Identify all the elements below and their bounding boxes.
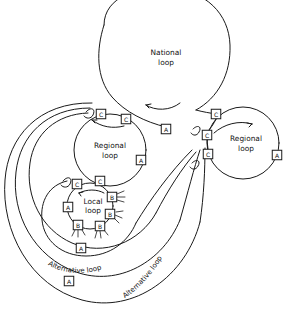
node-label: C — [98, 178, 102, 185]
hook-right-upper — [191, 126, 200, 135]
network-node-c-n4[interactable]: C — [95, 176, 105, 186]
alt-arc-3-right — [180, 150, 200, 220]
network-node-a-n16[interactable]: A — [76, 243, 86, 253]
network-node-c-n2[interactable]: C — [121, 114, 131, 124]
alternative-loop-arcs — [5, 103, 205, 303]
regional-right-direction-arrow — [214, 122, 252, 133]
network-node-a-n11[interactable]: A — [161, 124, 171, 134]
regional-left-label-line2: loop — [102, 151, 118, 160]
node-label: C — [99, 111, 103, 118]
network-node-c-n12[interactable]: C — [211, 109, 221, 119]
node-label: C — [124, 116, 128, 123]
local-loop-label-line1: Local — [83, 197, 102, 206]
network-node-c-n1[interactable]: C — [96, 109, 106, 119]
regional-right-arrow-head — [247, 123, 252, 127]
local-loop-arrow-head — [79, 192, 83, 196]
local-loop-label-line2: loop — [85, 206, 101, 215]
network-node-a-n6[interactable]: A — [63, 202, 73, 212]
national-loop-label-line2: loop — [158, 58, 174, 67]
network-node-a-n3[interactable]: A — [136, 155, 146, 165]
network-node-c-n5[interactable]: C — [72, 179, 82, 189]
alternative-loop-label-2: Alternative loop — [121, 254, 164, 300]
regional-left-loop-group — [74, 114, 146, 186]
node-label: C — [206, 151, 210, 158]
network-node-c-n14[interactable]: C — [203, 149, 213, 159]
node-label: C — [214, 111, 218, 118]
node-label: B — [108, 211, 112, 218]
network-diagram-svg: National loop Regional loop Regional loo… — [0, 0, 290, 321]
regional-left-label-line1: Regional — [94, 141, 126, 150]
node-label: C — [205, 132, 209, 139]
network-node-a-n15[interactable]: A — [272, 150, 282, 160]
alternative-loop-label-2-text: Alternative loop — [121, 254, 164, 300]
network-node-b-n9[interactable]: B — [105, 209, 115, 219]
node-label: B — [110, 194, 114, 201]
diagram-canvas: National loop Regional loop Regional loo… — [0, 0, 290, 321]
national-loop-lower-arc — [99, 25, 166, 127]
national-loop-label-line1: National — [151, 48, 182, 57]
network-node-b-n7[interactable]: B — [73, 220, 83, 230]
node-label: B — [76, 222, 80, 229]
network-node-a-n17[interactable]: A — [64, 276, 74, 286]
network-node-c-n13[interactable]: C — [202, 130, 212, 140]
regional-right-label-line1: Regional — [230, 134, 262, 143]
regional-left-direction-arrow — [92, 120, 124, 127]
alt-arc-3 — [15, 108, 180, 276]
network-node-b-n10[interactable]: B — [107, 192, 117, 202]
regional-right-label-line2: loop — [238, 144, 254, 153]
node-label: B — [98, 223, 102, 230]
alt-arc-2 — [29, 113, 156, 248]
node-label: C — [75, 181, 79, 188]
regional-left-loop-circle — [74, 114, 146, 186]
network-node-b-n8[interactable]: B — [95, 221, 105, 231]
